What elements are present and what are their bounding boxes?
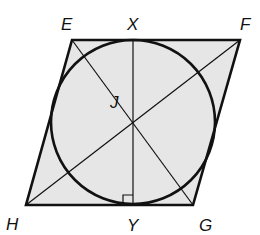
- label-Y: Y: [127, 216, 140, 235]
- label-E: E: [61, 15, 73, 34]
- label-X: X: [126, 15, 139, 34]
- label-H: H: [6, 215, 19, 234]
- geometry-diagram: E X F J H Y G: [0, 0, 260, 235]
- label-G: G: [199, 216, 212, 235]
- label-J: J: [109, 93, 119, 112]
- diagram-svg: E X F J H Y G: [0, 0, 260, 235]
- label-F: F: [240, 15, 252, 34]
